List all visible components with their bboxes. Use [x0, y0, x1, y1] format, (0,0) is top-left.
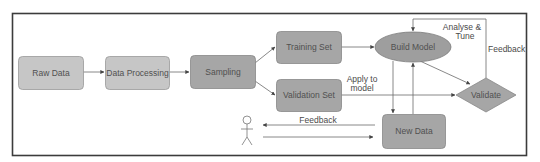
label-feedback-right: Feedback	[488, 44, 526, 54]
diagram-frame	[13, 14, 527, 156]
label-apply-to-2: model	[350, 83, 373, 93]
node-validation-set: Validation Set	[277, 80, 342, 112]
node-label: Build Model	[391, 42, 436, 52]
node-label: Data Processing	[106, 68, 169, 78]
node-new-data: New Data	[383, 115, 446, 149]
node-data-processing: Data Processing	[106, 57, 170, 90]
node-label: Validation Set	[283, 90, 335, 100]
node-raw-data: Raw Data	[19, 57, 84, 90]
node-label: Raw Data	[32, 68, 70, 78]
label-analyse-tune-2: Tune	[455, 31, 474, 41]
node-sampling: Sampling	[191, 56, 256, 89]
node-label: Sampling	[205, 67, 241, 77]
node-label: New Data	[395, 126, 433, 136]
node-label: Validate	[471, 90, 501, 100]
node-label: Training Set	[286, 42, 332, 52]
ml-workflow-diagram: Raw Data Data Processing Sampling Traini…	[0, 0, 540, 162]
node-training-set: Training Set	[277, 32, 342, 64]
label-feedback-user: Feedback	[299, 115, 337, 125]
node-build-model: Build Model	[375, 32, 451, 62]
